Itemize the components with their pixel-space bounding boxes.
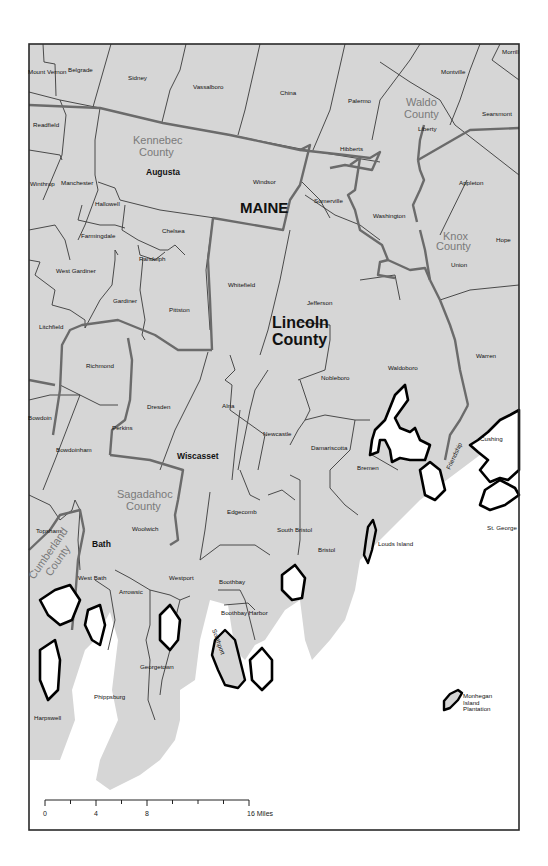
town-label: Hibberts [340, 145, 363, 152]
town-label: Perkins [112, 424, 133, 431]
county-label-sagadahoc: Sagadahoc [117, 488, 173, 500]
scale-label: 16 Miles [247, 810, 274, 817]
town-label: Windsor [253, 178, 276, 185]
town-label: Searsmont [482, 110, 512, 117]
town-label: Louds Island [378, 540, 414, 547]
county-label-waldo-2: County [404, 108, 439, 120]
town-label: Farmingdale [81, 232, 116, 239]
town-label: Gardiner [113, 297, 137, 304]
town-label: Hallowell [95, 200, 120, 207]
town-label: Palermo [348, 97, 372, 104]
town-label: Hope [496, 236, 511, 243]
town-label: Damariscotta [311, 444, 348, 451]
town-label: Arrowsic [119, 588, 143, 595]
town-label: St. George [487, 524, 517, 531]
town-label: Warren [476, 352, 497, 359]
town-label: Readfield [33, 121, 60, 128]
town-label: Cushing [480, 435, 503, 442]
scale-label: 8 [145, 810, 149, 817]
town-label: Winthrop [30, 180, 55, 187]
town-label: Appleton [459, 179, 484, 186]
town-label: Belgrade [68, 66, 93, 73]
town-label: Pittston [169, 306, 190, 313]
town-label: Chelsea [162, 227, 185, 234]
town-label: Morrill [502, 48, 519, 55]
focus-county-label-line2: County [272, 331, 327, 348]
town-label: Whitefield [228, 281, 256, 288]
town-label: West Bath [78, 574, 107, 581]
county-label-kennebec: Kennebec [133, 134, 183, 146]
county-label-waldo: Waldo [406, 96, 437, 108]
scale-label: 0 [43, 810, 47, 817]
town-label: Edgecomb [227, 508, 257, 515]
town-label: Bowdoinham [56, 446, 92, 453]
town-label: Richmond [86, 362, 114, 369]
town-label: Sidney [128, 74, 148, 81]
town-label: Woolwich [132, 525, 159, 532]
town-label: Boothbay Harbor [221, 609, 268, 616]
county-label-sagadahoc-2: County [126, 500, 161, 512]
town-label: Mount Vernon [28, 68, 67, 75]
map: MAINE Lincoln County Kennebec County Wal… [0, 0, 548, 866]
town-label: Westport [169, 574, 194, 581]
town-label: Bremen [357, 464, 379, 471]
county-seat-augusta: Augusta [146, 167, 180, 177]
county-label-knox-2: County [436, 240, 471, 252]
scale-label: 4 [94, 810, 98, 817]
county-label-kennebec-2: County [139, 146, 174, 158]
town-label: Newcastle [263, 430, 292, 437]
town-label: Somerville [314, 197, 343, 204]
county-seat-wiscasset: Wiscasset [177, 451, 219, 461]
town-label: Boothbay [219, 578, 246, 585]
town-label: Montville [441, 68, 466, 75]
town-label: Randolph [139, 255, 166, 262]
town-label: Waldoboro [388, 364, 418, 371]
focus-county-label: Lincoln [272, 314, 329, 331]
town-label: Harpswell [34, 714, 61, 721]
town-label: Phippsburg [94, 693, 126, 700]
town-label: South Bristol [277, 526, 312, 533]
town-label: Nobleboro [321, 374, 350, 381]
town-label: China [280, 89, 297, 96]
town-label: Liberty [418, 125, 437, 132]
town-label: Jefferson [307, 299, 333, 306]
town-label: Topsham [36, 527, 61, 534]
town-label: Bristol [318, 546, 335, 553]
town-label: Vassalboro [193, 83, 224, 90]
town-label: West Gardiner [56, 267, 96, 274]
town-label: Union [451, 261, 468, 268]
town-label: Washington [373, 212, 406, 219]
county-seat-bath: Bath [92, 539, 111, 549]
state-label: MAINE [240, 199, 288, 216]
town-label: Dresden [147, 403, 171, 410]
town-label: Georgetown [140, 663, 174, 670]
town-label: Bowdoin [28, 414, 52, 421]
town-label: Litchfield [39, 323, 64, 330]
town-label: Manchester [61, 179, 93, 186]
town-label: Alna [222, 402, 235, 409]
